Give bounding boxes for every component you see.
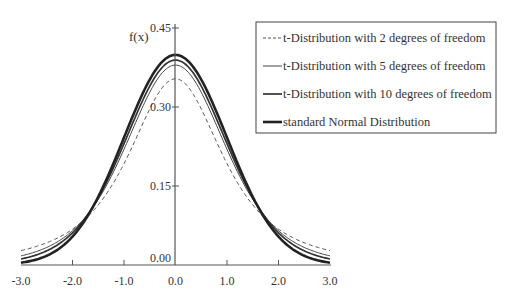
y-tick-label: 0.00 — [150, 251, 171, 265]
x-tick-label: 1.0 — [220, 274, 235, 288]
y-tick-label: 0.15 — [150, 179, 171, 193]
legend-label: standard Normal Distribution — [283, 115, 431, 129]
x-tick-label: -2.0 — [63, 274, 82, 288]
y-tick-label: 0.30 — [150, 100, 171, 114]
y-tick-label: 0.45 — [150, 21, 171, 35]
legend-label: t-Distribution with 2 degrees of freedom — [283, 31, 486, 45]
x-tick-label: -3.0 — [12, 274, 31, 288]
y-axis-label: f(x) — [129, 29, 149, 44]
chart: -3.0-2.0-1.00.01.02.03.0 0.000.150.300.4… — [0, 0, 511, 304]
x-tick-label: 0.0 — [168, 274, 183, 288]
legend-label: t-Distribution with 5 degrees of freedom — [283, 59, 486, 73]
x-tick-label: 3.0 — [323, 274, 338, 288]
legend: t-Distribution with 2 degrees of freedom… — [256, 22, 496, 133]
legend-label: t-Distribution with 10 degrees of freedo… — [283, 87, 492, 101]
x-tick-label: -1.0 — [115, 274, 134, 288]
x-tick-label: 2.0 — [271, 274, 286, 288]
